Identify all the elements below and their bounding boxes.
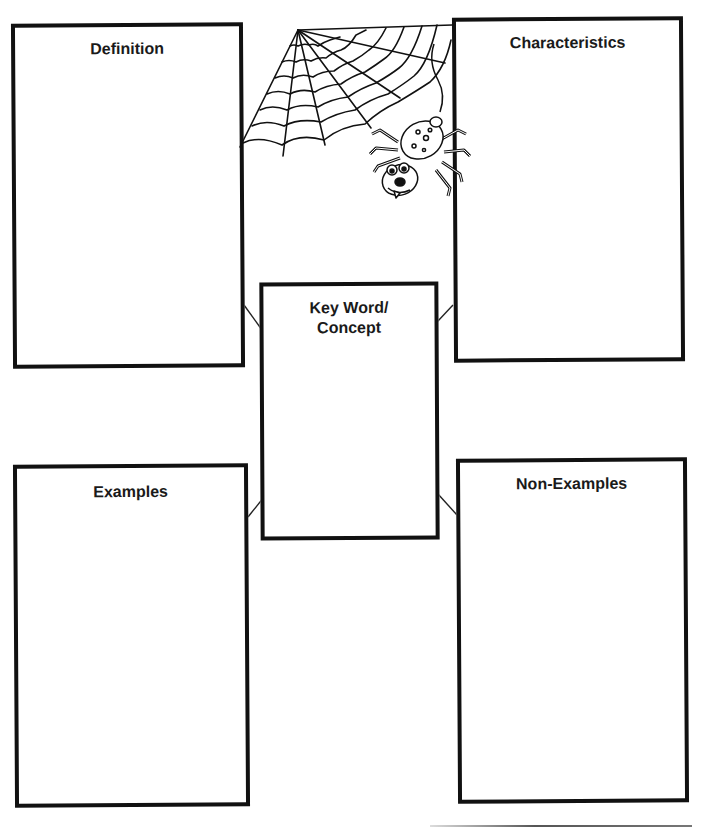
key-word-concept-box[interactable]: Key Word/ Concept <box>259 282 439 541</box>
key-word-concept-label: Key Word/ Concept <box>263 298 434 339</box>
connector-non-examples <box>438 494 457 515</box>
cut-off-header-text: — — — — <box>8 0 78 6</box>
definition-label: Definition <box>15 38 239 59</box>
key-word-label-line1: Key Word/ <box>263 298 434 319</box>
examples-box[interactable]: Examples <box>13 463 250 807</box>
key-word-label-line2: Concept <box>264 318 435 339</box>
characteristics-label: Characteristics <box>456 32 679 53</box>
spider-web-icon <box>240 25 452 156</box>
non-examples-label: Non-Examples <box>460 473 683 494</box>
examples-label: Examples <box>17 481 244 502</box>
connector-characteristics <box>437 305 453 322</box>
definition-box[interactable]: Definition <box>11 22 245 368</box>
non-examples-box[interactable]: Non-Examples <box>456 457 689 803</box>
characteristics-box[interactable]: Characteristics <box>452 16 685 362</box>
